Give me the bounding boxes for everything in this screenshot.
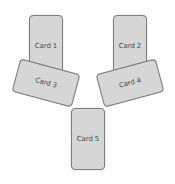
card-4[interactable]: Card 4	[96, 59, 165, 108]
card-5[interactable]: Card 5	[71, 108, 105, 170]
card-4-label: Card 4	[118, 76, 142, 90]
card-layout-diagram: Card 1 Card 2 Card 3 Card 4 Card 5	[0, 0, 175, 184]
card-3-label: Card 3	[34, 76, 58, 90]
card-3[interactable]: Card 3	[12, 59, 81, 108]
card-5-label: Card 5	[77, 135, 99, 143]
card-1-label: Card 1	[35, 42, 57, 50]
card-2-label: Card 2	[119, 42, 141, 50]
